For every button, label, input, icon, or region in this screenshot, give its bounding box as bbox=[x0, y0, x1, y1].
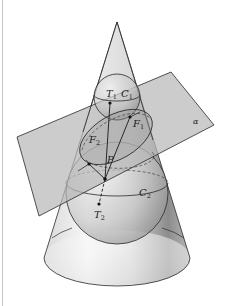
point-f1 bbox=[128, 115, 131, 118]
figure-frame: T1 C1 F1 F2 P C2 T2 α bbox=[0, 0, 228, 306]
point-p bbox=[103, 177, 107, 181]
label-alpha: α bbox=[193, 117, 199, 126]
point-f2 bbox=[87, 162, 90, 165]
dandelin-diagram: T1 C1 F1 F2 P C2 T2 α bbox=[0, 0, 228, 306]
point-t2 bbox=[97, 202, 100, 205]
point-t1 bbox=[108, 101, 111, 104]
label-p: P bbox=[106, 154, 114, 165]
